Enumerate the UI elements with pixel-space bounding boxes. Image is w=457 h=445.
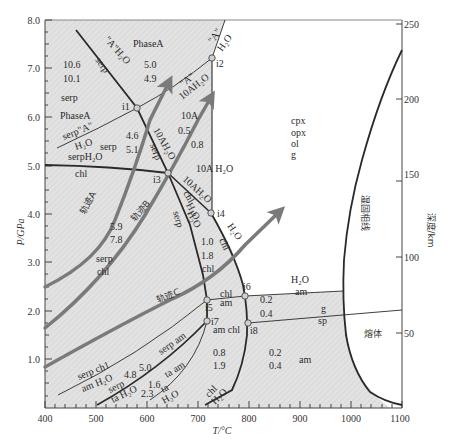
y-tick-6: 6.0 xyxy=(28,112,41,123)
x-tick-800: 800 xyxy=(242,413,257,424)
point-i4 xyxy=(208,210,214,216)
value-5-1: 5.1 xyxy=(126,144,139,155)
label-wet-solidus: 湿固相线 xyxy=(360,195,371,231)
value-0-8-b: 0.8 xyxy=(213,347,226,358)
label-serp-3: serp xyxy=(96,253,113,264)
label-i6: i6 xyxy=(243,281,251,292)
y2-axis-label: 深度/km xyxy=(426,212,437,247)
y-axis-label: P/GPa xyxy=(15,218,26,246)
point-i6 xyxy=(242,293,248,299)
x-tick-700: 700 xyxy=(191,413,206,424)
y-tick-2: 2.0 xyxy=(28,306,41,317)
label-chl-1: chl xyxy=(75,168,87,179)
label-phasea-top: PhaseA xyxy=(133,38,164,49)
label-chl-2: chl xyxy=(97,266,109,277)
y-tick-labels: 1.0 2.0 3.0 4.0 5.0 6.0 7.0 8.0 xyxy=(28,15,41,365)
label-opx: opx xyxy=(291,127,306,138)
value-5-0: 5.0 xyxy=(144,59,157,70)
x-tick-500: 500 xyxy=(89,413,104,424)
y-tick-5: 5.0 xyxy=(28,161,41,172)
value-0-2-b: 0.2 xyxy=(269,347,282,358)
value-1-9: 1.9 xyxy=(213,360,226,371)
value-4-8: 4.8 xyxy=(124,369,137,380)
y-tick-3: 3.0 xyxy=(28,257,41,268)
label-serp-1: serp xyxy=(61,92,78,103)
value-10-6: 10.6 xyxy=(63,59,81,70)
label-i3: i3 xyxy=(153,174,161,185)
y-tick-7: 7.0 xyxy=(28,63,41,74)
y-tick-8: 8.0 xyxy=(28,15,41,26)
value-0-4-a: 0.4 xyxy=(260,308,273,319)
y2-tick-250: 250 xyxy=(404,19,419,30)
y2-tick-150: 150 xyxy=(404,169,419,180)
label-i1: i1 xyxy=(122,101,130,112)
x-tick-labels: 400 500 600 700 800 900 1000 1100 xyxy=(38,413,410,424)
label-phasea-left: PhaseA xyxy=(60,110,91,121)
point-i7 xyxy=(204,318,210,324)
point-i3 xyxy=(165,170,171,176)
label-h2o-upper: H₂O xyxy=(291,274,309,285)
label-i5: i5 xyxy=(205,302,213,313)
label-am-field: am xyxy=(220,297,232,308)
value-4-6: 4.6 xyxy=(126,130,139,141)
value-10-1: 10.1 xyxy=(63,73,81,84)
label-10a: 10A xyxy=(181,110,199,121)
x-tick-600: 600 xyxy=(140,413,155,424)
value-5-0-b: 5.0 xyxy=(139,362,152,373)
label-am-lower: am xyxy=(299,354,311,365)
y2-tick-100: 100 xyxy=(404,252,419,263)
y-tick-1: 1.0 xyxy=(28,354,41,365)
point-i2 xyxy=(209,55,215,61)
value-0-5: 0.5 xyxy=(178,125,191,136)
y2-tick-50: 50 xyxy=(404,328,414,339)
y2-ticks xyxy=(396,24,402,333)
label-g-upper: g xyxy=(321,303,326,314)
label-am-upper: am xyxy=(295,286,307,297)
y-tick-4: 4.0 xyxy=(28,209,41,220)
value-1-8: 1.8 xyxy=(201,250,214,261)
x-tick-1000: 1000 xyxy=(341,413,361,424)
value-2-3: 2.3 xyxy=(141,388,154,399)
label-i2: i2 xyxy=(216,58,224,69)
x-axis-label: T/°C xyxy=(212,425,231,436)
y2-tick-200: 200 xyxy=(404,94,419,105)
value-0-4-b: 0.4 xyxy=(269,360,282,371)
phase-diagram: 1.0 2.0 3.0 4.0 5.0 6.0 7.0 8.0 P/GPa 40… xyxy=(0,0,457,445)
value-0-2-a: 0.2 xyxy=(260,294,273,305)
label-10a-h2o: 10A H₂O xyxy=(196,163,233,174)
label-am-chl: am chl xyxy=(213,324,240,335)
label-i8: i8 xyxy=(250,325,258,336)
label-g: g xyxy=(291,149,296,160)
label-melt: 熔体 xyxy=(364,328,382,339)
value-1-0: 1.0 xyxy=(201,236,214,247)
label-sp: sp xyxy=(318,315,327,326)
label-i4: i4 xyxy=(217,208,225,219)
value-7-8: 7.8 xyxy=(110,234,123,245)
label-serp-h2o: serpH₂O xyxy=(68,151,103,162)
x-tick-900: 900 xyxy=(293,413,308,424)
label-cpx: cpx xyxy=(291,115,305,126)
point-i1 xyxy=(134,105,140,111)
value-5-9: 5.9 xyxy=(110,221,123,232)
label-chl-3: chl xyxy=(202,263,214,274)
label-ol: ol xyxy=(291,138,299,149)
value-4-9: 4.9 xyxy=(144,73,157,84)
y2-tick-labels: 50 100 150 200 250 xyxy=(404,19,419,339)
value-0-8-a: 0.8 xyxy=(191,139,204,150)
x-tick-400: 400 xyxy=(38,413,53,424)
shaded-region-amphibole xyxy=(230,291,390,408)
x-tick-1100: 1100 xyxy=(390,413,410,424)
